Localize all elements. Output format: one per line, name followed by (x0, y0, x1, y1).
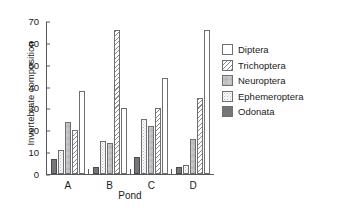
bar-b-trichoptera (114, 30, 120, 174)
legend-swatch-trichoptera (222, 60, 233, 71)
bar-c-ephemeroptera (141, 119, 147, 174)
bar-b-ephemeroptera (100, 141, 106, 174)
bar-d-neuroptera (190, 139, 196, 174)
y-tick-label: 0 (34, 169, 39, 180)
legend-label: Diptera (238, 44, 269, 55)
bar-a-odonata (51, 159, 57, 174)
legend-label: Trichoptera (238, 60, 286, 71)
legend-item-ephemeroptera: Ephemeroptera (222, 91, 303, 102)
bar-group-d: D (172, 22, 214, 174)
y-tick-label: 10 (28, 147, 39, 158)
bar-d-ephemeroptera (183, 165, 189, 174)
legend-swatch-neuroptera (222, 75, 233, 86)
y-tick-label: 60 (28, 37, 39, 48)
bar-groups: ABCD (47, 22, 214, 174)
y-tick-label: 50 (28, 59, 39, 70)
legend-label: Odonata (238, 106, 274, 117)
bar-d-odonata (176, 167, 182, 174)
legend-label: Ephemeroptera (238, 91, 303, 102)
bar-a-diptera (79, 91, 85, 174)
bar-d-trichoptera (197, 98, 203, 175)
y-tick-label: 70 (28, 16, 39, 27)
x-axis-title: Pond (46, 190, 214, 201)
y-tick-mark (46, 175, 50, 176)
chart-legend: DipteraTrichopteraNeuropteraEphemeropter… (222, 44, 303, 117)
bar-group-b: B (89, 22, 131, 174)
legend-item-trichoptera: Trichoptera (222, 60, 303, 71)
bar-b-odonata (93, 167, 99, 174)
bar-c-trichoptera (155, 108, 161, 174)
bar-group-c: C (131, 22, 173, 174)
legend-item-neuroptera: Neuroptera (222, 75, 303, 86)
legend-swatch-ephemeroptera (222, 91, 233, 102)
invertebrate-composition-chart: Invertebrate composition 010203040506070… (0, 0, 339, 208)
bar-c-neuroptera (148, 126, 154, 174)
bar-a-ephemeroptera (58, 150, 64, 174)
y-tick-label: 30 (28, 103, 39, 114)
bar-c-odonata (134, 157, 140, 174)
legend-swatch-odonata (222, 106, 233, 117)
bar-a-trichoptera (72, 130, 78, 174)
y-tick-label: 20 (28, 125, 39, 136)
legend-item-diptera: Diptera (222, 44, 303, 55)
plot-area: 010203040506070 ABCD (46, 22, 214, 175)
bar-a-neuroptera (65, 122, 71, 174)
bar-c-diptera (162, 78, 168, 174)
bar-b-diptera (121, 108, 127, 174)
x-axis-line (46, 174, 214, 175)
bar-b-neuroptera (107, 143, 113, 174)
legend-swatch-diptera (222, 44, 233, 55)
bar-group-a: A (47, 22, 89, 174)
legend-label: Neuroptera (238, 75, 286, 86)
bar-d-diptera (204, 30, 210, 174)
legend-item-odonata: Odonata (222, 106, 303, 117)
y-tick-label: 40 (28, 81, 39, 92)
